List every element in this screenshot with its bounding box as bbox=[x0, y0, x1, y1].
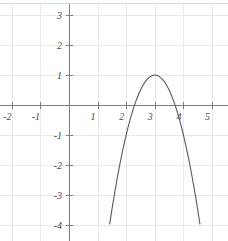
axes bbox=[0, 4, 228, 241]
curve-series bbox=[110, 75, 200, 224]
x-tick-label: 2 bbox=[119, 111, 124, 122]
x-axis-tick-labels: -2-112345 bbox=[3, 111, 210, 122]
y-tick-label: 1 bbox=[57, 70, 62, 81]
y-tick-label: -3 bbox=[54, 190, 62, 201]
x-tick-label: -2 bbox=[3, 111, 11, 122]
graph-figure: -2-112345 321-1-2-3-4 bbox=[0, 0, 228, 241]
y-tick-label: 2 bbox=[57, 40, 62, 51]
x-tick-label: 1 bbox=[91, 111, 96, 122]
x-tick-label: 4 bbox=[176, 111, 181, 122]
y-axis-tick-labels: 321-1-2-3-4 bbox=[54, 10, 62, 230]
parabola-curve bbox=[110, 75, 200, 224]
y-tick-label: -2 bbox=[54, 160, 62, 171]
x-tick-label: -1 bbox=[32, 111, 40, 122]
tick-marks bbox=[13, 16, 213, 226]
grid-lines bbox=[0, 4, 228, 241]
x-tick-label: 5 bbox=[205, 111, 210, 122]
y-tick-label: 3 bbox=[56, 10, 62, 21]
x-tick-label: 3 bbox=[147, 111, 153, 122]
parabola-plot: -2-112345 321-1-2-3-4 bbox=[0, 0, 228, 241]
y-tick-label: -1 bbox=[54, 130, 62, 141]
y-tick-label: -4 bbox=[54, 220, 62, 231]
